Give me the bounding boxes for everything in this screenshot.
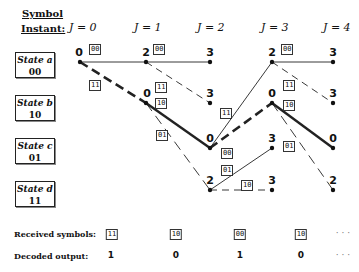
metric-j2-a: 3 (206, 46, 214, 59)
received-symbol-2: 10 (170, 229, 182, 240)
metric-j1-a: 2 (142, 46, 150, 59)
received-symbols-label: Received symbols: (14, 229, 96, 239)
branch-label-j1-ab: 11 (155, 82, 167, 93)
received-symbol-1: 11 (106, 229, 118, 240)
metric-j0-a: 0 (75, 46, 83, 59)
metric-j2-c: 0 (206, 132, 214, 145)
decoded-bit-2: 0 (173, 250, 179, 260)
metric-j1-b: 0 (143, 87, 151, 100)
branch-label-j0-aa: 00 (89, 44, 101, 55)
branch-label-j3-bd: 01 (283, 141, 295, 152)
metric-j2-d: 2 (206, 174, 214, 187)
branch-label-j1-aa: 00 (153, 44, 165, 55)
received-symbol-4: 10 (295, 229, 307, 240)
branch-j3a-j4b (272, 62, 333, 103)
branch-label-j1-bd: 01 (156, 130, 168, 141)
branch-label-j3-bc: 10 (283, 100, 295, 111)
received-symbol-3: 00 (234, 229, 246, 240)
metric-j3-d: 3 (268, 174, 276, 187)
metric-j4-c: 0 (329, 132, 337, 145)
decoded-ellipsis: · · · (336, 250, 350, 260)
branch-label-j0-ab: 11 (89, 80, 101, 91)
decoded-bit-4: 0 (298, 250, 304, 260)
metric-j4-d: 2 (329, 174, 337, 187)
received-ellipsis: · · · (336, 228, 350, 238)
branch-label-j3-aa: 00 (281, 44, 293, 55)
metric-j3-b: 0 (268, 87, 276, 100)
metric-j4-a: 3 (329, 46, 337, 59)
branch-label-j2-dd: 10 (241, 180, 253, 191)
decoded-bit-1: 1 (108, 250, 114, 260)
decoded-output-label: Decoded output: (14, 251, 88, 261)
branch-j3b-j4d (272, 103, 333, 190)
branch-j1b-j2d (146, 103, 210, 190)
branch-j1b-j2c (146, 103, 210, 148)
metric-j3-c: 3 (268, 132, 276, 145)
branch-label-j2-dc: 01 (221, 165, 233, 176)
branch-label-j3-ab: 11 (283, 80, 295, 91)
metric-j3-a: 2 (268, 46, 276, 59)
branch-j3b-j4c (272, 103, 333, 148)
branch-label-j1-bc: 10 (155, 98, 167, 109)
decoded-bit-3: 1 (237, 250, 243, 260)
metric-j2-b: 3 (206, 87, 214, 100)
branch-j2c-j3a (210, 62, 272, 148)
branch-label-j2-b: 11 (220, 108, 232, 119)
metric-j4-b: 3 (329, 87, 337, 100)
branch-label-j2-cb: 00 (221, 148, 233, 159)
